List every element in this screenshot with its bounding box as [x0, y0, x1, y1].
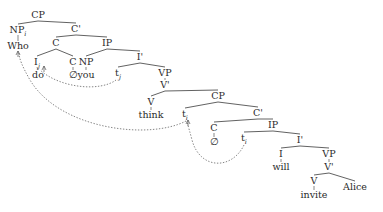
tree-labels: CPNPiWhoC'CIPIjdoC∅NPyoutjI'VPV'VthinkCP…	[7, 9, 367, 200]
node-c-3: C	[210, 122, 217, 133]
tree-edge	[185, 102, 218, 108]
node-i-2: I	[279, 148, 283, 159]
tree-edge	[37, 49, 56, 56]
node-cp-2: CP	[211, 90, 225, 101]
node-v-bar-1: V'	[159, 79, 169, 90]
tree-edge	[86, 49, 107, 56]
tree-edge	[281, 146, 300, 148]
node-vp-1: VP	[157, 67, 172, 78]
node-alice: Alice	[342, 181, 367, 192]
node-np-you: NP	[79, 56, 94, 67]
node-t-i-2: ti	[241, 132, 247, 146]
node-c-bar-2: C'	[253, 107, 263, 118]
node-vp-2: VP	[321, 148, 336, 159]
node-t-j: tj	[115, 67, 121, 81]
node-v-2: V	[310, 175, 318, 186]
node-v-bar-2: V'	[323, 161, 333, 172]
node-i-j: Ij	[34, 56, 40, 70]
tree-edge	[165, 90, 218, 91]
tree-edge	[218, 102, 258, 107]
tree-edge	[118, 63, 140, 67]
tree-edge	[56, 49, 73, 56]
tree-edges	[18, 21, 355, 190]
node-empty-c-3: ∅	[210, 136, 219, 147]
tree-edge	[107, 49, 140, 51]
tree-edge	[244, 131, 273, 132]
node-v-1: V	[147, 96, 155, 107]
tree-edge	[329, 173, 355, 181]
tree-edge	[214, 119, 258, 122]
node-do: do	[32, 69, 44, 80]
node-c-bar-1: C'	[71, 23, 81, 34]
node-think: think	[139, 109, 164, 120]
node-ip-2: IP	[268, 119, 279, 130]
node-c-2: C	[69, 56, 76, 67]
node-i-bar-2: I'	[297, 134, 303, 145]
node-ip-1: IP	[102, 37, 113, 48]
node-c-1: C	[52, 37, 59, 48]
node-invite: invite	[300, 189, 327, 200]
node-who: Who	[7, 40, 29, 51]
node-t-i-1: ti	[182, 108, 188, 122]
node-empty-c-2: ∅	[69, 69, 78, 80]
node-you: you	[76, 69, 94, 80]
node-cp-root: CP	[31, 9, 45, 20]
syntax-tree: CPNPiWhoC'CIPIjdoC∅NPyoutjI'VPV'VthinkCP…	[0, 0, 383, 212]
node-will: will	[272, 161, 289, 172]
node-i-bar-1: I'	[137, 51, 143, 62]
